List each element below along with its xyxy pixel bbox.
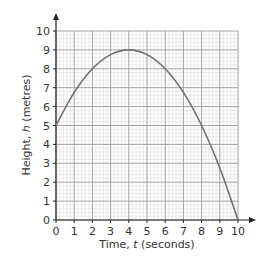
y-axis-title: Height, h (metres) [20, 75, 33, 176]
y-tick-label: 10 [36, 25, 50, 38]
y-tick-label: 5 [43, 120, 50, 133]
x-tick-label: 0 [53, 225, 60, 238]
height-time-chart: 012345678910 012345678910 Time, t (secon… [0, 0, 262, 266]
y-tick-label: 1 [43, 195, 50, 208]
y-tick-label: 6 [43, 101, 50, 114]
y-tick-label: 3 [43, 157, 50, 170]
x-tick-label: 4 [125, 225, 132, 238]
y-tick-label: 9 [43, 44, 50, 57]
x-axis-arrow-icon [249, 217, 256, 223]
y-axis-arrow-icon [53, 13, 59, 20]
y-tick-label: 7 [43, 82, 50, 95]
y-tick-labels: 012345678910 [36, 25, 56, 227]
x-tick-label: 7 [180, 225, 187, 238]
y-tick-label: 4 [43, 138, 50, 151]
y-tick-label: 8 [43, 63, 50, 76]
x-axis-title: Time, t (seconds) [98, 238, 194, 251]
major-grid [56, 31, 238, 220]
x-tick-labels: 012345678910 [53, 220, 246, 238]
x-tick-label: 10 [231, 225, 245, 238]
x-tick-label: 6 [162, 225, 169, 238]
x-tick-label: 8 [198, 225, 205, 238]
x-tick-label: 1 [71, 225, 78, 238]
y-tick-label: 2 [43, 176, 50, 189]
x-tick-label: 3 [107, 225, 114, 238]
x-tick-label: 2 [89, 225, 96, 238]
y-tick-label: 0 [43, 214, 50, 227]
x-tick-label: 5 [144, 225, 151, 238]
x-tick-label: 9 [216, 225, 223, 238]
